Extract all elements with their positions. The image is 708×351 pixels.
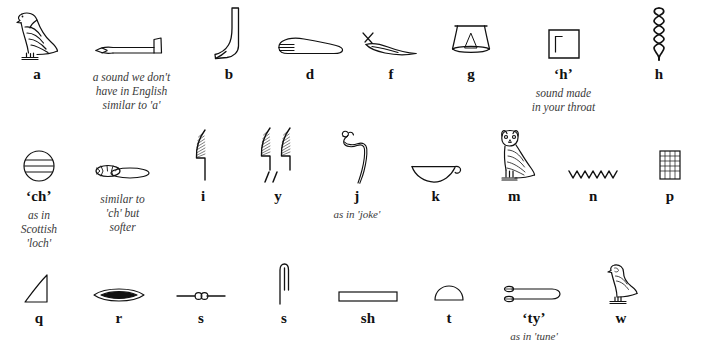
glyph-cell-ayin: a sound we don't have in English similar… bbox=[74, 4, 189, 112]
glyph-cell-k: k bbox=[397, 128, 475, 208]
glyph-cell-m: m bbox=[475, 128, 555, 208]
cobra-glyph bbox=[338, 128, 376, 184]
glyph-letter: i bbox=[201, 189, 205, 205]
glyph-letter: t bbox=[446, 311, 451, 327]
glyph-cell-ty: ‘ty’ as in 'tune' bbox=[488, 262, 580, 343]
glyph-letter: ‘ty’ bbox=[522, 311, 545, 327]
glyph-letter: h bbox=[655, 67, 664, 83]
twisted-flax-glyph bbox=[644, 4, 674, 62]
glyph-letter: p bbox=[666, 189, 675, 205]
glyph-letter: a bbox=[33, 67, 41, 83]
mouth-glyph bbox=[91, 262, 147, 306]
glyph-cell-y: y bbox=[239, 128, 317, 208]
quail-chick-glyph bbox=[602, 262, 640, 306]
glyph-row-1: a a sound we don't have in English si bbox=[0, 4, 708, 114]
glyph-note: a sound we don't have in English similar… bbox=[93, 70, 171, 112]
glyph-letter: f bbox=[388, 67, 393, 83]
glyph-cell-b: b bbox=[189, 4, 269, 86]
glyph-cell-t: t bbox=[410, 262, 488, 330]
bread-loaf-glyph bbox=[432, 262, 466, 306]
glyph-letter: q bbox=[35, 311, 44, 327]
glyph-letter: j bbox=[354, 189, 359, 205]
glyph-letter: g bbox=[467, 67, 475, 83]
foot-leg-glyph bbox=[212, 4, 246, 62]
glyph-letter: r bbox=[116, 311, 123, 327]
glyph-letter: w bbox=[615, 311, 626, 327]
glyph-note: as in 'tune' bbox=[510, 330, 557, 343]
forearm-glyph bbox=[94, 4, 170, 62]
glyph-letter: sh bbox=[361, 311, 376, 327]
glyph-cell-d: d bbox=[269, 4, 351, 86]
glyph-cell-h-emphatic: ‘h’ sound made in your throat bbox=[511, 4, 616, 114]
glyph-row-3: q r bbox=[0, 262, 708, 343]
glyph-row-2: ‘ch’ as in Scottish 'loch' similar to 'c… bbox=[0, 128, 708, 250]
glyph-cell-a: a bbox=[0, 4, 74, 86]
glyph-letter: ‘ch’ bbox=[26, 189, 52, 205]
owl-glyph bbox=[492, 128, 536, 184]
glyph-cell-q: q bbox=[0, 262, 78, 330]
glyph-letter: m bbox=[508, 189, 521, 205]
glyph-note: similar to 'ch' but softer bbox=[100, 192, 144, 234]
hill-slope-glyph bbox=[21, 262, 57, 306]
placenta-glyph bbox=[21, 128, 57, 184]
glyph-letter: s bbox=[198, 311, 204, 327]
glyph-cell-s-cloth: s bbox=[242, 262, 326, 330]
horned-viper-glyph bbox=[358, 4, 424, 62]
glyph-cell-h: h bbox=[616, 4, 702, 86]
reed-shelter-glyph bbox=[544, 4, 584, 62]
animal-belly-glyph bbox=[93, 128, 153, 184]
glyph-cell-sh: sh bbox=[326, 262, 410, 330]
glyph-letter: n bbox=[589, 189, 598, 205]
vulture-glyph bbox=[13, 4, 61, 62]
glyph-note: sound made in your throat bbox=[532, 86, 595, 114]
stool-glyph bbox=[655, 128, 685, 184]
hieroglyph-alphabet-chart: a a sound we don't have in English si bbox=[0, 0, 708, 351]
glyph-letter: s bbox=[281, 311, 287, 327]
glyph-cell-p: p bbox=[632, 128, 708, 208]
reed-leaf-glyph bbox=[191, 128, 215, 184]
glyph-cell-f: f bbox=[351, 4, 431, 86]
folded-cloth-glyph bbox=[274, 262, 294, 306]
glyph-letter: b bbox=[225, 67, 234, 83]
glyph-cell-w: w bbox=[580, 262, 662, 330]
glyph-letter: k bbox=[431, 189, 440, 205]
glyph-cell-kh: similar to 'ch' but softer bbox=[78, 128, 167, 234]
glyph-cell-j: j as in 'joke' bbox=[317, 128, 397, 221]
glyph-cell-g: g bbox=[431, 4, 511, 86]
hand-glyph bbox=[274, 4, 346, 62]
glyph-letter: y bbox=[274, 189, 282, 205]
glyph-cell-r: r bbox=[78, 262, 160, 330]
glyph-cell-i: i bbox=[167, 128, 239, 208]
jar-stand-glyph bbox=[448, 4, 494, 62]
glyph-note: as in 'joke' bbox=[333, 208, 380, 221]
glyph-letter: d bbox=[306, 67, 315, 83]
tethering-rope-glyph bbox=[502, 262, 566, 306]
water-ripple-glyph bbox=[567, 128, 619, 184]
door-bolt-glyph bbox=[175, 262, 227, 306]
glyph-note: as in Scottish 'loch' bbox=[21, 208, 57, 250]
glyph-cell-n: n bbox=[554, 128, 632, 208]
glyph-letter: ‘h’ bbox=[554, 67, 573, 83]
double-reed-glyph bbox=[256, 128, 300, 184]
glyph-cell-s-bolt: s bbox=[160, 262, 242, 330]
glyph-cell-ch: ‘ch’ as in Scottish 'loch' bbox=[0, 128, 78, 250]
basket-glyph bbox=[409, 128, 463, 184]
pool-glyph bbox=[337, 262, 399, 306]
